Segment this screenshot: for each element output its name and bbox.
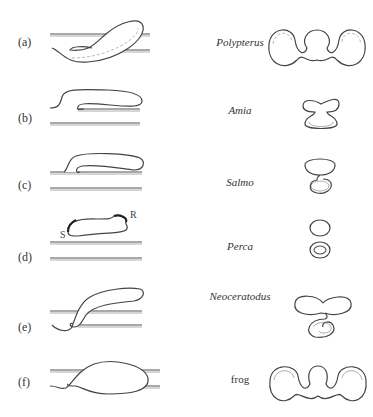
panel-label: (a) <box>18 35 31 50</box>
lateral-view-diagram <box>48 150 158 195</box>
panel-label: (b) <box>18 111 32 126</box>
annotation-s: S <box>60 229 66 240</box>
lateral-view-diagram: S R <box>48 210 158 265</box>
cross-section-diagram <box>305 218 335 263</box>
cross-section-diagram <box>293 291 355 341</box>
lateral-view-diagram <box>48 285 158 335</box>
cross-section-diagram <box>301 92 341 130</box>
species-name: Neoceratodus <box>190 290 290 302</box>
cross-section-diagram <box>268 360 368 405</box>
cross-section-diagram <box>303 155 337 195</box>
lateral-view-diagram <box>48 18 158 68</box>
lateral-view-diagram <box>48 85 158 130</box>
species-name: Perca <box>190 240 290 252</box>
panel-label: (e) <box>18 320 31 335</box>
panel-label: (f) <box>18 375 30 390</box>
panel-label: (c) <box>18 178 31 193</box>
species-name: Salmo <box>190 176 290 188</box>
panel-label: (d) <box>18 250 32 265</box>
annotation-r: R <box>130 209 137 220</box>
lateral-view-diagram <box>48 360 168 405</box>
cross-section-diagram <box>267 20 367 70</box>
species-name: Amia <box>190 104 290 116</box>
